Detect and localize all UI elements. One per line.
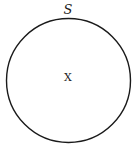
set-diagram: S X <box>0 0 140 149</box>
set-label-s: S <box>64 2 73 17</box>
diagram-canvas: S X <box>0 0 140 149</box>
element-label-x: X <box>64 71 72 84</box>
